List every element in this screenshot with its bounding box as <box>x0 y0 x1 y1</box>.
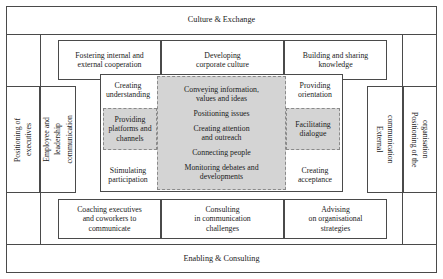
side-positioning-executives-label: Positioning of executives <box>13 118 33 162</box>
core-providing-platforms-channels: Providing platforms and channels <box>103 108 157 150</box>
core-creating-understanding: Creating understanding <box>100 74 156 106</box>
band-culture-exchange-label: Culture & Exchange <box>188 15 255 25</box>
field-advising-organisational-strategies-label: Advising on organisational strategies <box>309 205 363 233</box>
core-providing-platforms-channels-label: Providing platforms and channels <box>108 115 151 143</box>
band-culture-exchange: Culture & Exchange <box>6 6 437 34</box>
core-facilitating-dialogue-label: Facilitating dialogue <box>295 120 331 138</box>
field-consulting-communication-challenges: Consulting in communication challenges <box>161 199 284 239</box>
core-providing-orientation: Providing orientation <box>287 74 343 106</box>
core-providing-orientation-label: Providing orientation <box>298 81 332 99</box>
field-developing-corporate-culture-label: Developing corporate culture <box>196 51 249 69</box>
core-stimulating-participation-label: Stimulating participation <box>108 166 147 184</box>
core-facilitating-dialogue: Facilitating dialogue <box>286 108 340 150</box>
field-fostering-cooperation-label: Fostering internal and external cooperat… <box>75 51 143 69</box>
core-center-task-2: Creating attention and outreach <box>193 124 249 142</box>
side-external-communication: External communication <box>367 86 403 193</box>
core-creating-acceptance-label: Creating acceptance <box>298 166 332 184</box>
field-consulting-communication-challenges-label: Consulting in communication challenges <box>194 205 251 233</box>
band-enabling-consulting-label: Enabling & Consulting <box>184 254 260 264</box>
side-employee-leadership-communication: Employee and leadership communication <box>40 86 76 193</box>
field-building-sharing-knowledge-label: Building and sharing knowledge <box>303 51 368 69</box>
core-creating-understanding-label: Creating understanding <box>106 81 150 99</box>
core-center-task-1: Positioning issues <box>193 109 249 118</box>
core-center-task-3: Connecting people <box>192 148 251 157</box>
core-center-task-4: Monitoring debates and developments <box>184 163 258 181</box>
core-center-tasks: Conveying information, values and ideas … <box>157 76 286 190</box>
side-positioning-organisation: Positioning of the organisation <box>403 86 437 193</box>
side-employee-leadership-communication-label: Employee and leadership communication <box>42 115 74 164</box>
side-positioning-executives: Positioning of executives <box>6 86 40 193</box>
field-coaching-executives-label: Coaching executives and coworkers to com… <box>77 205 142 233</box>
core-stimulating-participation: Stimulating participation <box>100 158 156 192</box>
band-enabling-consulting: Enabling & Consulting <box>6 245 437 273</box>
field-coaching-executives: Coaching executives and coworkers to com… <box>58 199 161 239</box>
core-creating-acceptance: Creating acceptance <box>287 158 343 192</box>
side-positioning-organisation-label: Positioning of the organisation <box>410 112 430 167</box>
core-center-task-0: Conveying information, values and ideas <box>184 85 259 103</box>
field-advising-organisational-strategies: Advising on organisational strategies <box>284 199 387 239</box>
communication-framework-diagram: Culture & Exchange Enabling & Consulting… <box>0 0 443 279</box>
side-external-communication-label: External communication <box>375 115 395 164</box>
